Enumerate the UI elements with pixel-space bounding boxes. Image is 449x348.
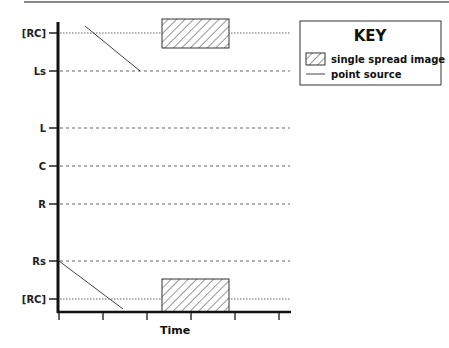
y-axis-labels: [RC] Ls L C R Rs [RC] [22, 28, 58, 305]
key-item-spread: single spread image [331, 54, 445, 65]
point-source-bottom [59, 261, 123, 309]
y-label-rc-bottom: [RC] [22, 294, 46, 305]
y-label-ls: Ls [34, 66, 46, 77]
y-label-rs: Rs [32, 256, 46, 267]
x-axis-label: Time [160, 324, 190, 337]
key-hatch-swatch [306, 53, 325, 65]
row-guides [60, 33, 290, 299]
panning-timeline-diagram: [RC] Ls L C R Rs [RC] Time KEY single sp… [0, 0, 449, 348]
key-title: KEY [354, 27, 388, 45]
y-label-r: R [38, 199, 46, 210]
y-label-rc-top: [RC] [22, 28, 46, 39]
y-label-l: L [40, 123, 47, 134]
x-axis-ticks [59, 313, 279, 320]
y-label-c: C [39, 161, 46, 172]
key-item-point: point source [331, 69, 402, 80]
spread-image-bottom [162, 279, 229, 312]
spread-image-top [162, 19, 229, 48]
legend-key: KEY single spread image point source [300, 21, 445, 85]
